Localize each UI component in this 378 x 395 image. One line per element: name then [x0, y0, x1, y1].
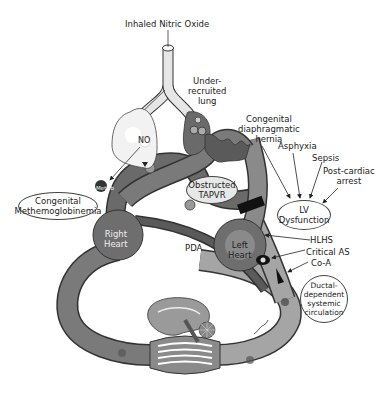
label-no: NO [138, 136, 150, 146]
label-sepsis: Sepsis [312, 153, 339, 163]
label-asphyxia: Asphyxia [278, 141, 317, 151]
label-coa: Co-A [311, 258, 331, 268]
label-methb: MetHb [96, 183, 114, 193]
label-right-heart: Right Heart [104, 229, 128, 249]
label-left-heart: Left Heart [228, 240, 252, 260]
label-cdh: Congenital diaphragmatic hernia [238, 114, 300, 144]
oval-congenital-methemoglobinemia: Congenital Methemoglobinemia [18, 192, 98, 220]
oval-obstructed-tapvr: Obstructed TAPVR [186, 176, 238, 204]
brain-icon [148, 298, 215, 342]
label-critical-as: Critical AS [306, 247, 350, 257]
artist-signature [254, 320, 268, 334]
label-pda: PDA [185, 243, 202, 253]
label-under-recruited-lung: Under- recruited lung [188, 76, 226, 106]
capillary-bed-icon [150, 336, 220, 374]
label-hlhs: HLHS [310, 235, 333, 245]
oval-ductal-dependent: Ductal- dependent systemic circulation [300, 275, 348, 323]
label-post-cardiac-arrest: Post-cardiac arrest [323, 166, 375, 186]
label-inhaled-nitric-oxide: Inhaled Nitric Oxide [125, 19, 209, 29]
oval-lv-dysfunction: LV Dysfunction [277, 200, 331, 230]
